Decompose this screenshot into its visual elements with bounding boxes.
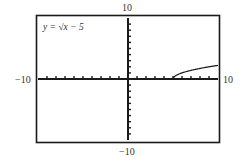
x-max-label: 10 [223, 75, 233, 85]
graph-window [0, 0, 241, 160]
y-min-label: −10 [119, 147, 135, 157]
x-min-label: −10 [15, 75, 31, 85]
axes [38, 18, 218, 140]
function-curve [173, 65, 218, 79]
y-max-label: 10 [122, 3, 132, 13]
equation-label: y = √x − 5 [43, 22, 84, 32]
